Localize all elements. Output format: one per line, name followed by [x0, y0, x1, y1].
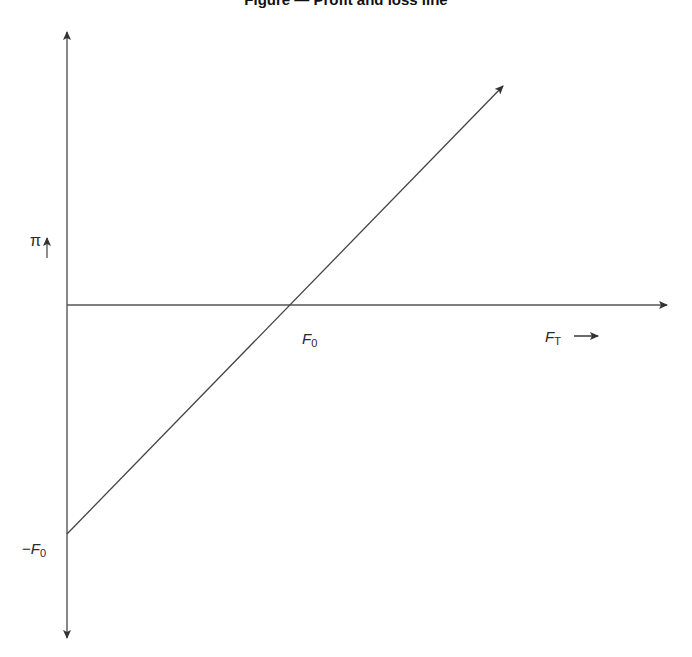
x-axis-main: F — [545, 328, 554, 345]
x-axis-label: FT — [545, 328, 561, 347]
payoff-diagram — [0, 0, 692, 657]
intercept-label: −F0 — [22, 540, 46, 559]
breakeven-sub: 0 — [311, 337, 317, 349]
breakeven-label: F0 — [302, 330, 317, 349]
payoff-line — [67, 86, 503, 534]
intercept-main: F — [31, 540, 40, 557]
pi-symbol: π — [30, 232, 41, 249]
x-axis-sub: T — [554, 335, 561, 347]
intercept-sub: 0 — [40, 547, 46, 559]
y-axis-label: π — [30, 232, 41, 250]
intercept-prefix: − — [22, 540, 31, 557]
breakeven-main: F — [302, 330, 311, 347]
